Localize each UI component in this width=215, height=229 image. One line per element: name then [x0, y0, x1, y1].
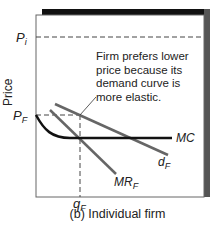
annotation-line: price because its	[96, 64, 189, 78]
annotation-line: more elastic.	[96, 91, 189, 105]
firm-diagram: Pi PF qF Price MC dF MRF	[0, 0, 215, 229]
annotation-line: demand curve is	[96, 77, 189, 91]
pi-label: Pi	[16, 30, 28, 47]
annotation-line: Firm prefers lower	[96, 50, 189, 64]
price-axis-label: Price	[1, 78, 15, 106]
frame-shadow	[204, 9, 210, 197]
mc-label: MC	[176, 131, 195, 145]
figure-caption: (b) Individual firm	[0, 207, 215, 221]
frame-top-bar	[42, 9, 210, 15]
pf-label: PF	[13, 108, 28, 125]
annotation-text: Firm prefers lower price because its dem…	[96, 50, 189, 104]
